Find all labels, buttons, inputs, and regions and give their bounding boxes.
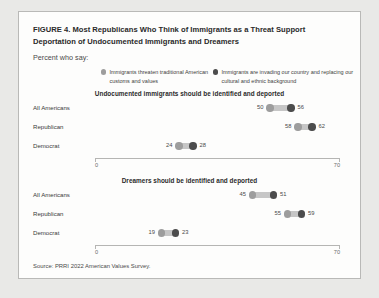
datapoint-invading[interactable]: [298, 210, 305, 217]
row-plot: 55 59: [95, 206, 340, 225]
row-value-low: 45: [240, 191, 246, 197]
source-note: Source: PRRI 2022 American Values Survey…: [33, 263, 150, 269]
axis-tick-min: 0: [95, 249, 98, 255]
row-value-high: 56: [298, 104, 304, 110]
row-value-low: 19: [149, 229, 155, 235]
x-axis-undocumented: 0 70: [95, 157, 340, 171]
row-plot: 24 28: [95, 138, 340, 157]
datapoint-threaten[interactable]: [284, 210, 291, 217]
axis-cap-left: [95, 158, 96, 162]
chart-undocumented: Undocumented immigrants should be identi…: [33, 90, 346, 171]
row-label: All Americans: [33, 104, 70, 111]
row-label: Democrat: [33, 229, 59, 236]
axis-tick-min: 0: [95, 162, 98, 168]
axis-tick-max: 70: [334, 162, 340, 168]
row-plot: 19 23: [95, 225, 340, 244]
datapoint-invading[interactable]: [189, 142, 196, 149]
chart-title-dreamers: Dreamers should be identified and deport…: [33, 177, 346, 184]
chart-row: All Americans 45 51: [33, 187, 346, 206]
figure-page: FIGURE 4. Most Republicans Who Think of …: [0, 0, 379, 298]
legend-label-threaten: Immigrants threaten traditional American…: [109, 68, 211, 86]
row-value-low: 50: [257, 104, 263, 110]
figure-subtitle: Percent who say:: [33, 53, 346, 62]
x-axis-dreamers: 0 70: [95, 244, 340, 258]
row-label: Republican: [33, 210, 64, 217]
row-plot: 45 51: [95, 187, 340, 206]
legend-swatch-icon-invading: [213, 69, 218, 74]
legend-item-invading: Immigrants are invading our country and …: [213, 68, 363, 86]
axis-cap-right: [339, 158, 340, 162]
figure-title: FIGURE 4. Most Republicans Who Think of …: [33, 24, 346, 47]
datapoint-threaten[interactable]: [249, 191, 256, 198]
chart-title-undocumented: Undocumented immigrants should be identi…: [33, 90, 346, 97]
datapoint-invading[interactable]: [287, 104, 294, 111]
legend: Immigrants threaten traditional American…: [33, 68, 346, 90]
row-label: Republican: [33, 123, 64, 130]
chart-row: Democrat 24 28: [33, 138, 346, 157]
row-value-high: 51: [280, 191, 286, 197]
datapoint-threaten[interactable]: [266, 104, 273, 111]
chart-dreamers: Dreamers should be identified and deport…: [33, 177, 346, 258]
datapoint-threaten[interactable]: [158, 229, 165, 236]
datapoint-invading[interactable]: [270, 191, 277, 198]
row-value-high: 23: [182, 229, 188, 235]
row-value-low: 58: [285, 123, 291, 129]
chart-row: Democrat 19 23: [33, 225, 346, 244]
row-label: Democrat: [33, 142, 59, 149]
legend-label-invading: Immigrants are invading our country and …: [221, 68, 363, 86]
row-value-high: 59: [308, 210, 314, 216]
figure-card: FIGURE 4. Most Republicans Who Think of …: [18, 11, 361, 279]
axis-tick-max: 70: [334, 249, 340, 255]
axis-line: [95, 245, 340, 246]
datapoint-invading[interactable]: [308, 123, 315, 130]
row-plot: 50 56: [95, 100, 340, 119]
datapoint-threaten[interactable]: [294, 123, 301, 130]
datapoint-threaten[interactable]: [175, 142, 182, 149]
datapoint-invading[interactable]: [172, 229, 179, 236]
row-value-high: 62: [319, 123, 325, 129]
legend-item-threaten: Immigrants threaten traditional American…: [101, 68, 211, 86]
chart-rows-dreamers: All Americans 45 51 Republican 55: [33, 187, 346, 244]
axis-cap-left: [95, 245, 96, 249]
row-plot: 58 62: [95, 119, 340, 138]
chart-rows-undocumented: All Americans 50 56 Republican 58: [33, 100, 346, 157]
row-label: All Americans: [33, 191, 70, 198]
row-value-low: 24: [166, 142, 172, 148]
axis-cap-right: [339, 245, 340, 249]
chart-row: All Americans 50 56: [33, 100, 346, 119]
row-value-high: 28: [200, 142, 206, 148]
legend-swatch-icon-threaten: [101, 69, 106, 74]
chart-row: Republican 55 59: [33, 206, 346, 225]
chart-row: Republican 58 62: [33, 119, 346, 138]
axis-line: [95, 158, 340, 159]
row-value-low: 55: [275, 210, 281, 216]
